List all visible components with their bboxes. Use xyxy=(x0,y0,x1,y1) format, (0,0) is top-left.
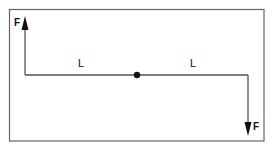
arrow-down-icon xyxy=(245,122,252,136)
force-right-label: F xyxy=(253,121,259,132)
arrow-up-icon xyxy=(22,16,29,30)
force-couple-diagram: F F L L xyxy=(0,0,273,145)
force-left-label: F xyxy=(14,17,20,28)
arm-left-label: L xyxy=(78,57,84,69)
pivot-dot xyxy=(134,72,140,78)
arm-right-label: L xyxy=(190,57,196,69)
